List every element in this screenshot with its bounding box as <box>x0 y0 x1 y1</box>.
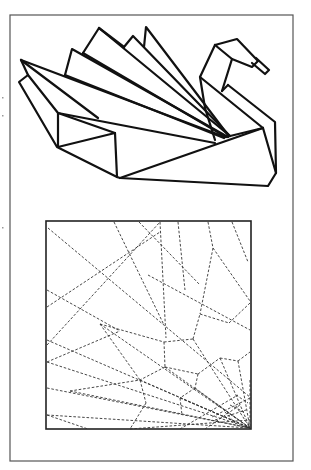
figure <box>0 0 311 470</box>
crease-pattern <box>46 221 251 429</box>
origami-swan-drawing <box>19 27 276 186</box>
figure-canvas <box>0 0 311 470</box>
crease-lines <box>47 222 251 429</box>
margin-marks <box>2 97 4 229</box>
